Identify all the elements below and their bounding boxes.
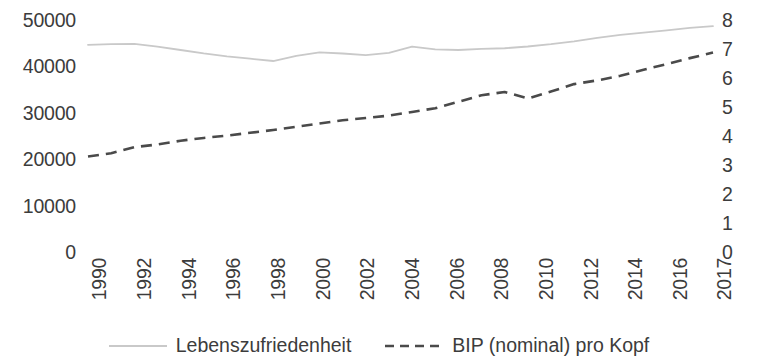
x-axis-tick: 2012 bbox=[580, 258, 602, 328]
x-axis-tick: 1990 bbox=[88, 258, 110, 328]
chart-legend: Lebenszufriedenheit BIP (nominal) pro Ko… bbox=[0, 330, 758, 361]
right-axis-tick: 7 bbox=[722, 40, 752, 60]
right-axis-tick: 8 bbox=[722, 11, 752, 31]
series-line-bip-pro-kopf bbox=[88, 53, 713, 157]
legend-label: Lebenszufriedenheit bbox=[176, 336, 352, 356]
x-axis-tick: 2010 bbox=[535, 258, 557, 328]
x-axis-tick: 2002 bbox=[356, 258, 378, 328]
x-axis-tick: 1994 bbox=[178, 258, 200, 328]
series-line-lebenszufriedenheit bbox=[88, 26, 713, 61]
x-axis-tick: 1996 bbox=[222, 258, 244, 328]
x-axis-tick: 2017 bbox=[713, 258, 735, 328]
left-axis-tick: 20000 bbox=[0, 150, 76, 170]
left-axis-tick: 40000 bbox=[0, 57, 76, 77]
x-axis-tick: 2008 bbox=[490, 258, 512, 328]
legend-label: BIP (nominal) pro Kopf bbox=[452, 336, 649, 356]
x-axis: 1990 1992 1994 1996 1998 2000 2002 2004 … bbox=[0, 258, 758, 330]
x-axis-tick: 2000 bbox=[312, 258, 334, 328]
x-axis-tick: 2004 bbox=[401, 258, 423, 328]
right-axis-tick: 5 bbox=[722, 98, 752, 118]
x-axis-tick: 2014 bbox=[624, 258, 646, 328]
right-y-axis: 8 7 6 5 4 3 2 1 0 bbox=[722, 0, 758, 262]
right-axis-tick: 2 bbox=[722, 185, 752, 205]
dashed-line-icon bbox=[385, 340, 443, 352]
right-axis-tick: 6 bbox=[722, 69, 752, 89]
x-axis-tick: 2006 bbox=[446, 258, 468, 328]
legend-item-lebenszufriedenheit: Lebenszufriedenheit bbox=[109, 336, 352, 356]
left-y-axis: 50000 40000 30000 20000 10000 0 bbox=[0, 0, 76, 262]
x-axis-tick: 1992 bbox=[133, 258, 155, 328]
right-axis-tick: 3 bbox=[722, 156, 752, 176]
right-axis-tick: 4 bbox=[722, 127, 752, 147]
plot-area bbox=[82, 8, 722, 258]
right-axis-tick: 1 bbox=[722, 214, 752, 234]
x-axis-tick: 2016 bbox=[669, 258, 691, 328]
legend-item-bip-pro-kopf: BIP (nominal) pro Kopf bbox=[385, 336, 649, 356]
solid-line-icon bbox=[109, 340, 167, 352]
left-axis-tick: 10000 bbox=[0, 197, 76, 217]
left-axis-tick: 30000 bbox=[0, 104, 76, 124]
left-axis-tick: 50000 bbox=[0, 11, 76, 31]
line-chart: 50000 40000 30000 20000 10000 0 8 7 6 5 … bbox=[0, 0, 758, 361]
series-canvas bbox=[82, 8, 722, 258]
x-axis-tick: 1998 bbox=[267, 258, 289, 328]
